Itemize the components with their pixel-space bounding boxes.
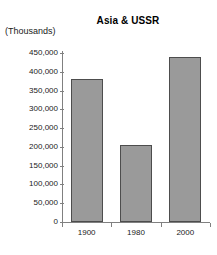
bar [120,145,152,222]
x-tick-label: 1980 [116,228,156,237]
y-tick-mark [60,184,64,185]
y-tick-label-wrap: 300,000 [12,105,58,113]
y-tick-label: 300,000 [16,105,58,113]
y-tick-label-wrap: 50,000 [12,199,58,207]
y-tick-label-wrap: 350,000 [12,87,58,95]
y-tick-label: 350,000 [16,87,58,95]
y-tick-label-wrap: 400,000 [12,68,58,76]
y-tick-label-wrap: 0 [12,218,58,226]
x-tick-mark [111,223,112,227]
y-tick-label: 450,000 [16,49,58,57]
y-tick-mark [60,147,64,148]
y-tick-label: 200,000 [16,143,58,151]
y-tick-label-wrap: 150,000 [12,162,58,170]
y-tick-label-wrap: 250,000 [12,124,58,132]
y-tick-label: 0 [16,218,58,226]
bar-chart: Asia & USSR (Thousands) 450,000400,00035… [0,0,217,255]
y-tick-label: 250,000 [16,124,58,132]
y-tick-mark [60,128,64,129]
y-tick-mark [60,53,64,54]
y-tick-label: 50,000 [16,199,58,207]
x-tick-mark [210,223,211,227]
y-tick-mark [60,109,64,110]
x-tick-mark [62,223,63,227]
y-tick-mark [60,72,64,73]
x-tick-label: 2000 [165,228,205,237]
y-tick-label-wrap: 100,000 [12,180,58,188]
y-tick-label: 400,000 [16,68,58,76]
bar [169,57,201,222]
y-tick-mark [60,203,64,204]
y-tick-mark [60,166,64,167]
y-tick-mark [60,91,64,92]
y-tick-label-wrap: 200,000 [12,143,58,151]
y-tick-label: 100,000 [16,180,58,188]
bar [71,79,103,222]
y-tick-label-wrap: 450,000 [12,49,58,57]
x-axis-line [62,222,210,223]
x-tick-mark [161,223,162,227]
plot-area: 450,000400,000350,000300,000250,000200,0… [0,0,217,255]
x-tick-label: 1900 [67,228,107,237]
y-axis-line [62,51,63,223]
y-tick-label: 150,000 [16,162,58,170]
